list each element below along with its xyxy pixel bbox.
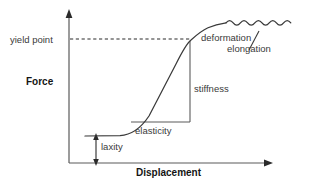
- x-axis-label-displacement: Displacement: [136, 168, 201, 178]
- label-stiffness: stiffness: [194, 84, 229, 94]
- y-axis-up-arrow-icon: [66, 9, 73, 18]
- force-displacement-diagram: yield point Force Displacement stiffness…: [0, 0, 317, 185]
- diagram-canvas: [0, 0, 317, 185]
- x-axis: [69, 160, 273, 167]
- x-axis-right-arrow-icon: [264, 160, 273, 167]
- laxity-measure-arrow: [93, 133, 99, 166]
- label-laxity: laxity: [101, 142, 123, 152]
- plastic-plateau-wavy-curve: [226, 21, 291, 26]
- label-elongation: elongation: [227, 44, 271, 54]
- label-elasticity: elasticity: [135, 126, 171, 136]
- y-axis: [66, 9, 73, 163]
- label-deformation: deformation: [201, 33, 251, 43]
- label-yield-point: yield point: [10, 35, 53, 45]
- y-axis-label-force: Force: [26, 77, 53, 87]
